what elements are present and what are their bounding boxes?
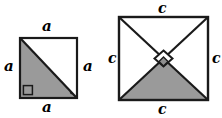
label-c-top: c [158,1,167,15]
diagram-canvas: a a a a c c c c [0,0,222,118]
label-c-bottom: c [158,102,167,116]
label-c-right: c [212,51,221,65]
figure-square-c: c c c c [0,0,222,118]
label-c-left: c [108,51,117,65]
